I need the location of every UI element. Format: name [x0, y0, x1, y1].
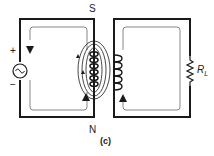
- primary-coil-icon: [90, 52, 98, 87]
- flux-arrow-down-icon: [26, 46, 34, 54]
- south-pole-label: S: [89, 4, 96, 14]
- transformer-diagram: [0, 0, 214, 156]
- flux-arrow-up-icon: [119, 94, 127, 102]
- load-resistor-icon: [187, 56, 193, 86]
- ac-source-icon: [13, 62, 27, 80]
- right-core: [114, 19, 190, 117]
- secondary-coil-icon: [114, 55, 122, 90]
- source-plus-label: +: [10, 46, 16, 56]
- loop-arrow-icon: [81, 70, 85, 74]
- left-flux-path: [30, 27, 87, 110]
- north-pole-label: N: [89, 125, 96, 135]
- source-minus-label: −: [10, 80, 16, 90]
- right-flux-path: [123, 27, 180, 110]
- flux-arrow-up-icon: [82, 93, 90, 101]
- figure-caption: (c): [100, 137, 111, 146]
- left-core: [20, 19, 94, 117]
- load-resistor-label: RL: [197, 65, 208, 77]
- loop-arrow-icon: [76, 54, 80, 58]
